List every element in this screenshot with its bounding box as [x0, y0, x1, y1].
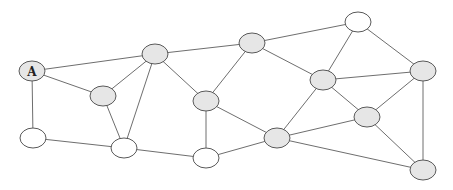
- edge-n4-n7: [155, 43, 252, 54]
- node-circle: [239, 33, 265, 53]
- nodes-layer: A: [19, 12, 436, 180]
- edge-n1-n3: [33, 138, 124, 148]
- node-n4: [142, 44, 168, 64]
- node-n1: [20, 128, 46, 148]
- node-n9: [310, 70, 336, 90]
- node-n11: [354, 107, 380, 127]
- node-n7: [239, 33, 265, 53]
- node-n6: [193, 148, 219, 168]
- node-circle: [193, 148, 219, 168]
- node-n13: [410, 160, 436, 180]
- node-circle: [20, 128, 46, 148]
- node-circle: [90, 86, 116, 106]
- node-circle: [111, 138, 137, 158]
- edge-n10-n11: [277, 117, 367, 138]
- edge-n8-n12: [358, 22, 423, 71]
- node-circle: [354, 107, 380, 127]
- node-circle: [410, 160, 436, 180]
- node-n3: [111, 138, 137, 158]
- edge-n9-n12: [323, 71, 423, 80]
- node-circle: [345, 12, 371, 32]
- node-n12: [410, 61, 436, 81]
- node-circle: [264, 128, 290, 148]
- node-n8: [345, 12, 371, 32]
- node-a: A: [19, 61, 45, 81]
- node-label: A: [26, 65, 37, 79]
- edge-n3-n4: [124, 54, 155, 148]
- node-circle: [193, 91, 219, 111]
- graph-diagram: A: [0, 0, 453, 190]
- edge-n10-n13: [277, 138, 423, 170]
- node-n2: [90, 86, 116, 106]
- node-n10: [264, 128, 290, 148]
- node-n5: [193, 91, 219, 111]
- node-circle: [310, 70, 336, 90]
- node-circle: [142, 44, 168, 64]
- node-circle: [410, 61, 436, 81]
- edge-n7-n8: [252, 22, 358, 43]
